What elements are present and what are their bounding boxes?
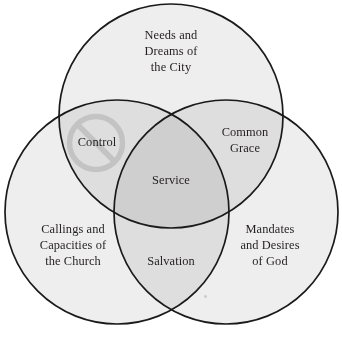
circle-fills xyxy=(5,4,338,324)
venn-circles-svg xyxy=(0,0,342,340)
page-speck-artifact xyxy=(204,295,207,298)
circle-fill-bottom-right xyxy=(114,100,338,324)
venn-diagram: Needs and Dreams of the City Callings an… xyxy=(0,0,342,340)
